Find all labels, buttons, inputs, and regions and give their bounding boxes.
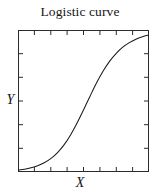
- plot-frame: [19, 31, 149, 172]
- x-axis-label: X: [0, 175, 160, 191]
- plot-area: [18, 30, 149, 172]
- y-axis-label: Y: [4, 93, 17, 107]
- logistic-curve-figure: Logistic curve: [0, 0, 160, 196]
- plot-svg: [18, 30, 149, 172]
- chart-title: Logistic curve: [0, 3, 160, 20]
